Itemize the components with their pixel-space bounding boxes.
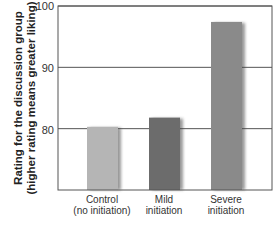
- x-label-severe: Severe initiation: [191, 194, 261, 216]
- x-label-severe-line-2: initiation: [191, 205, 261, 216]
- bar-mild: [149, 118, 180, 190]
- x-label-mild-line-1: Mild: [129, 194, 199, 205]
- x-label-control: Control (no initiation): [67, 194, 137, 216]
- bar-chart: Rating for the discussion group (higher …: [0, 0, 275, 225]
- plot-area: [0, 0, 275, 225]
- x-label-mild: Mild initiation: [129, 194, 199, 216]
- x-label-control-line-1: Control: [67, 194, 137, 205]
- bar-severe: [211, 22, 242, 190]
- x-label-mild-line-2: initiation: [129, 205, 199, 216]
- bar-control: [87, 127, 118, 190]
- x-label-control-line-2: (no initiation): [67, 205, 137, 216]
- x-label-severe-line-1: Severe: [191, 194, 261, 205]
- bars: [87, 22, 245, 190]
